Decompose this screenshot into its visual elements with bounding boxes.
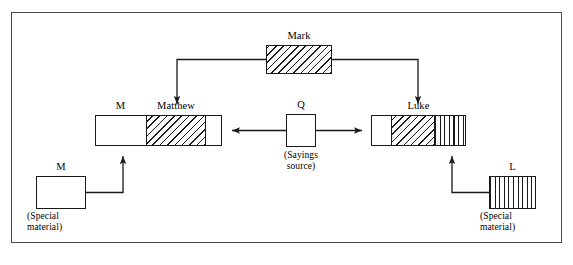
node-label-matthew: Matthew [146,100,206,111]
node-matthew[interactable] [95,115,222,146]
node-label-q: Q [286,99,316,110]
node-luke-segment-markan [391,116,435,145]
node-mark-segment-diagonal [267,46,331,73]
node-matthew-segment-m [96,116,146,145]
node-matthew-segment-q [205,116,221,145]
node-matthew-segment-markan [146,116,205,145]
node-mark[interactable] [266,45,332,74]
node-caption-l-special-line1: (Special [480,211,556,222]
node-caption-l-special-line2: material) [480,222,556,233]
node-caption-m-special-line1: (Special [27,211,103,222]
node-luke[interactable] [371,115,466,146]
node-caption-m-special: (Special material) [27,211,103,233]
diagram-canvas: Mark M Matthew Q (Sayings source) Luke M… [0,0,573,265]
node-caption-m-special-line2: material) [27,222,103,233]
node-q[interactable] [286,114,316,147]
node-l-special-segment-vertical [490,177,535,208]
node-caption-q-line1: (Sayings [266,150,336,161]
node-label-m-special: M [36,161,86,172]
node-caption-l-special: (Special material) [480,211,556,233]
node-m-special[interactable] [36,176,86,209]
node-caption-q-line2: source) [266,161,336,172]
node-label-luke: Luke [371,100,466,111]
node-luke-segment-l [434,116,465,145]
node-label-mark: Mark [266,30,332,41]
node-label-l-special: L [489,161,536,172]
node-l-special[interactable] [489,176,536,209]
node-label-matthew-m: M [95,100,146,111]
node-luke-segment-q [372,116,391,145]
node-caption-q: (Sayings source) [266,150,336,172]
node-m-special-segment-plain [37,177,85,208]
node-q-segment-plain [287,115,315,146]
